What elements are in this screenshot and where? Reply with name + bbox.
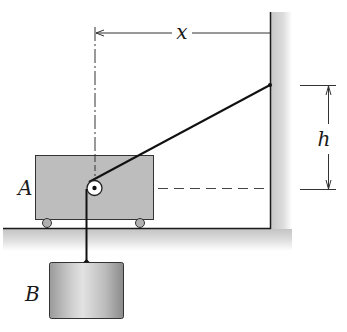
pulley-axle-icon bbox=[92, 186, 96, 190]
block-b: B bbox=[24, 259, 124, 319]
floor bbox=[3, 229, 292, 252]
h-label: h bbox=[318, 127, 331, 151]
block-a: A bbox=[16, 156, 154, 228]
pulley-diagram: x h A B bbox=[0, 0, 347, 332]
wheel-icon bbox=[136, 219, 145, 228]
pulley bbox=[87, 181, 102, 196]
x-dimension: x bbox=[96, 20, 270, 44]
h-dimension: h bbox=[300, 86, 336, 190]
wall-anchor-point bbox=[268, 83, 272, 87]
block-b-label: B bbox=[24, 282, 40, 306]
x-label: x bbox=[176, 20, 187, 44]
wall bbox=[270, 12, 292, 244]
inclined-cable bbox=[89, 85, 270, 182]
wheel-icon bbox=[43, 219, 52, 228]
block-a-label: A bbox=[16, 176, 32, 200]
hook-icon bbox=[83, 259, 90, 263]
